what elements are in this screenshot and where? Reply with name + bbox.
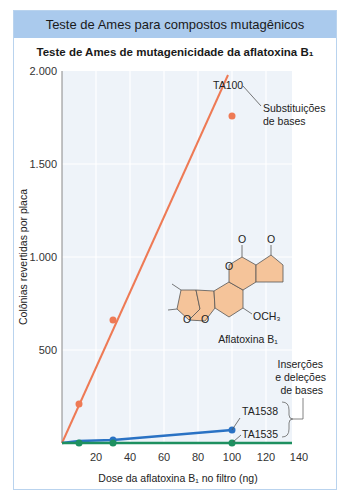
oxygen-label: O: [238, 233, 246, 245]
ta100-point: [229, 113, 236, 120]
x-tick: 100: [223, 451, 241, 463]
y-tick: 1.500: [29, 158, 57, 170]
molecule-label: Aflatoxina B₁: [218, 333, 278, 345]
bracket-leader: [293, 398, 303, 419]
ta1535-point: [110, 440, 117, 447]
x-tick: 140: [290, 451, 308, 463]
annotation-substitutions: Substituições: [263, 102, 325, 114]
oxygen-label: O: [225, 260, 233, 272]
annotation-insertions: e deleções: [275, 371, 326, 383]
x-axis-label: Dose da aflatoxina B₁ no filtro (ng): [98, 472, 257, 484]
ta1535-label: TA1535: [242, 428, 278, 440]
ta1538-label: TA1538: [242, 405, 278, 417]
oxygen-label: O: [183, 313, 191, 325]
chart: 2.000 1.500 1.000 500 20 40 60 80 100 12…: [0, 0, 346, 498]
y-tick: 500: [39, 344, 57, 356]
x-tick: 20: [90, 451, 102, 463]
annotation-substitutions: de bases: [263, 115, 306, 127]
annotation-insertions: Inserções: [277, 358, 323, 370]
ta100-point: [110, 317, 117, 324]
ta1535-point: [76, 440, 83, 447]
ta100-label: TA100: [213, 79, 243, 91]
x-tick: 80: [192, 451, 204, 463]
y-tick: 1.000: [29, 251, 57, 263]
x-tick: 40: [124, 451, 136, 463]
och3-label: OCH₃: [253, 310, 281, 322]
ta100-point: [76, 401, 83, 408]
x-tick: 60: [158, 451, 170, 463]
x-tick: 120: [257, 451, 275, 463]
y-tick: 2.000: [29, 65, 57, 77]
annotation-insertions: de bases: [280, 384, 323, 396]
oxygen-label: O: [201, 313, 209, 325]
oxygen-label: O: [267, 233, 275, 245]
y-axis-label: Colônias revertidas por placa: [17, 189, 29, 325]
